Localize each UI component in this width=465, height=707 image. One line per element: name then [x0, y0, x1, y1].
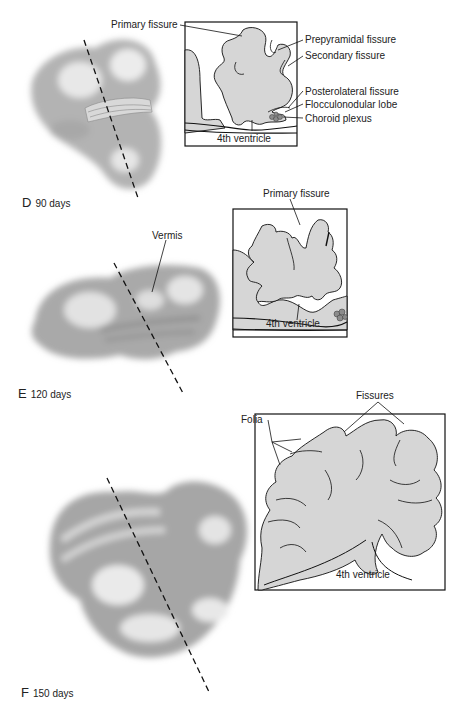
panel-letter-d: D	[22, 195, 31, 210]
label-primary-fissure-d: Primary fissure	[111, 19, 178, 30]
label-posterolateral-fissure: Posterolateral fissure	[305, 86, 399, 97]
label-fourth-ventricle-e: 4th ventricle	[266, 318, 320, 329]
panel-d-brain-drawing	[31, 40, 161, 198]
panel-age-e: 120 days	[31, 389, 72, 400]
label-fissures: Fissures	[356, 390, 394, 401]
panel-letter-e: E	[18, 386, 27, 401]
label-fourth-ventricle-d: 4th ventricle	[217, 133, 271, 144]
label-prepyramidal-fissure: Prepyramidal fissure	[305, 34, 396, 45]
label-fourth-ventricle-f: 4th ventricle	[336, 569, 390, 580]
label-secondary-fissure: Secondary fissure	[305, 50, 385, 61]
label-choroid-plexus: Choroid plexus	[305, 113, 372, 124]
label-primary-fissure-e: Primary fissure	[263, 188, 330, 199]
panel-d-section-diagram	[180, 22, 303, 146]
panel-age-d: 90 days	[35, 198, 70, 209]
panel-f-brain-drawing	[50, 478, 247, 694]
label-folia: Folia	[241, 414, 263, 425]
label-vermis: Vermis	[152, 230, 183, 241]
panel-caption-f: F150 days	[21, 683, 74, 701]
panel-age-f: 150 days	[33, 688, 74, 699]
panel-caption-d: D90 days	[22, 193, 70, 211]
panel-letter-f: F	[21, 685, 29, 700]
panel-f-section-diagram	[255, 402, 445, 590]
panel-e-section-diagram	[233, 199, 348, 337]
panel-caption-e: E120 days	[18, 384, 71, 402]
panel-e-brain-drawing	[32, 240, 220, 395]
label-flocculonodular-lobe: Flocculonodular lobe	[305, 99, 397, 110]
